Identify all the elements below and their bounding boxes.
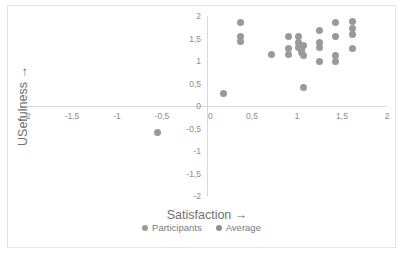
legend-marker-icon xyxy=(216,225,222,231)
data-point xyxy=(316,58,323,65)
x-tick-label: 1 xyxy=(295,111,300,121)
data-point xyxy=(220,90,227,97)
data-point xyxy=(237,19,244,26)
data-point xyxy=(237,38,244,45)
legend-item[interactable]: Participants xyxy=(142,222,202,233)
data-point xyxy=(349,45,356,52)
y-tick-label: 1 xyxy=(196,56,201,66)
x-tick-label: -1 xyxy=(113,111,121,121)
data-point xyxy=(300,84,307,91)
plot-area: -2-1,5-1-0,500,511,52 21,510,50-0,5-1-1,… xyxy=(27,16,387,196)
x-tick-label: -1,5 xyxy=(65,111,80,121)
data-point xyxy=(332,58,339,65)
data-point xyxy=(332,19,339,26)
y-tick-label: 0,5 xyxy=(189,79,201,89)
legend-label: Average xyxy=(226,222,261,233)
data-point xyxy=(300,42,307,49)
data-point xyxy=(285,51,292,58)
x-tick-label: 0 xyxy=(208,111,213,121)
data-point xyxy=(332,33,339,40)
x-tick-label: 1,5 xyxy=(336,111,348,121)
x-tick-label: 0,5 xyxy=(246,111,258,121)
y-axis-line xyxy=(207,16,208,196)
chart-legend: ParticipantsAverage xyxy=(0,222,403,233)
data-point xyxy=(285,33,292,40)
y-tick-label: 0 xyxy=(196,101,201,111)
y-axis-title: USefulness → xyxy=(16,66,30,146)
y-tick-label: 1,5 xyxy=(189,34,201,44)
y-tick-label: -1 xyxy=(193,146,201,156)
data-point xyxy=(349,31,356,38)
legend-item[interactable]: Average xyxy=(216,222,261,233)
x-tick-label: -0,5 xyxy=(155,111,170,121)
y-tick-label: -0,5 xyxy=(186,124,201,134)
scatter-chart: -2-1,5-1-0,500,511,52 21,510,50-0,5-1-1,… xyxy=(0,0,403,256)
x-tick-label: 2 xyxy=(385,111,390,121)
data-point xyxy=(154,129,161,136)
data-point xyxy=(316,44,323,51)
data-point xyxy=(268,51,275,58)
x-axis-title: Satisfaction → xyxy=(27,208,387,222)
data-point xyxy=(300,52,307,59)
legend-label: Participants xyxy=(152,222,202,233)
y-tick-label: -1,5 xyxy=(186,169,201,179)
legend-marker-icon xyxy=(142,225,148,231)
y-tick-label: 2 xyxy=(196,11,201,21)
data-point xyxy=(349,18,356,25)
data-point xyxy=(316,27,323,34)
y-tick-label: -2 xyxy=(193,191,201,201)
